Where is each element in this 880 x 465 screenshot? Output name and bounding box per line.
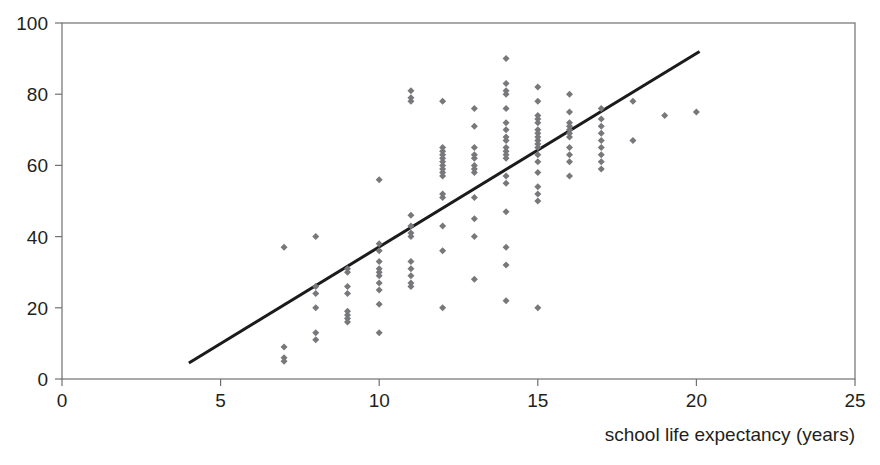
data-point-marker bbox=[503, 208, 510, 215]
data-point-marker bbox=[566, 151, 573, 158]
data-point-marker bbox=[344, 269, 351, 276]
data-point-marker bbox=[629, 137, 636, 144]
data-point-marker bbox=[503, 105, 510, 112]
data-point-marker bbox=[503, 55, 510, 62]
data-point-marker bbox=[312, 304, 319, 311]
data-point-marker bbox=[503, 262, 510, 269]
plot-border bbox=[62, 23, 855, 379]
data-point-marker bbox=[281, 244, 288, 251]
data-point-marker bbox=[407, 258, 414, 265]
data-point-marker bbox=[439, 98, 446, 105]
chart-canvas: 0510152025020406080100school life expect… bbox=[0, 0, 880, 465]
data-point-marker bbox=[312, 336, 319, 343]
data-point-marker bbox=[376, 176, 383, 183]
data-point-marker bbox=[376, 258, 383, 265]
data-point-marker bbox=[471, 276, 478, 283]
x-tick-label: 0 bbox=[57, 390, 68, 411]
data-point-marker bbox=[407, 265, 414, 272]
data-point-marker bbox=[407, 98, 414, 105]
data-point-marker bbox=[439, 173, 446, 180]
data-point-marker bbox=[693, 109, 700, 116]
data-point-marker bbox=[471, 105, 478, 112]
data-point-marker bbox=[439, 247, 446, 254]
data-point-marker bbox=[661, 112, 668, 119]
data-point-marker bbox=[534, 304, 541, 311]
data-point-marker bbox=[598, 137, 605, 144]
data-point-marker bbox=[534, 119, 541, 126]
data-point-marker bbox=[312, 290, 319, 297]
data-point-marker bbox=[566, 144, 573, 151]
data-point-marker bbox=[312, 329, 319, 336]
data-point-marker bbox=[439, 222, 446, 229]
data-point-marker bbox=[566, 133, 573, 140]
axis-labels-group: 0510152025020406080100school life expect… bbox=[16, 13, 865, 445]
data-point-marker bbox=[503, 119, 510, 126]
data-point-marker bbox=[471, 144, 478, 151]
data-point-marker bbox=[598, 116, 605, 123]
data-point-marker bbox=[407, 87, 414, 94]
y-tick-label: 20 bbox=[27, 298, 48, 319]
data-point-marker bbox=[503, 155, 510, 162]
data-point-marker bbox=[407, 272, 414, 279]
data-point-marker bbox=[629, 98, 636, 105]
data-point-marker bbox=[344, 319, 351, 326]
data-point-marker bbox=[471, 233, 478, 240]
data-point-marker bbox=[376, 272, 383, 279]
scatter-plot-figure: 0510152025020406080100school life expect… bbox=[0, 0, 880, 465]
data-point-marker bbox=[534, 183, 541, 190]
data-point-marker bbox=[503, 126, 510, 133]
data-point-marker bbox=[312, 233, 319, 240]
x-tick-label: 5 bbox=[215, 390, 226, 411]
data-point-marker bbox=[376, 279, 383, 286]
y-tick-label: 40 bbox=[27, 227, 48, 248]
data-point-marker bbox=[534, 198, 541, 205]
data-point-marker bbox=[471, 169, 478, 176]
x-tick-label: 20 bbox=[686, 390, 707, 411]
data-point-marker bbox=[344, 283, 351, 290]
data-point-marker bbox=[344, 290, 351, 297]
y-tick-label: 60 bbox=[27, 155, 48, 176]
data-point-marker bbox=[534, 169, 541, 176]
y-tick-label: 0 bbox=[37, 369, 48, 390]
data-point-marker bbox=[407, 212, 414, 219]
data-point-marker bbox=[566, 91, 573, 98]
y-tick-label: 80 bbox=[27, 84, 48, 105]
data-point-marker bbox=[566, 109, 573, 116]
data-point-marker bbox=[471, 215, 478, 222]
data-point-marker bbox=[534, 98, 541, 105]
data-point-marker bbox=[598, 144, 605, 151]
data-point-marker bbox=[503, 244, 510, 251]
trend-line-group bbox=[189, 51, 700, 363]
data-point-marker bbox=[376, 329, 383, 336]
x-axis-title: school life expectancy (years) bbox=[605, 424, 855, 445]
data-point-marker bbox=[566, 173, 573, 180]
data-point-marker bbox=[281, 343, 288, 350]
data-point-marker bbox=[376, 301, 383, 308]
data-point-marker bbox=[471, 123, 478, 130]
data-point-marker bbox=[503, 297, 510, 304]
data-point-marker bbox=[598, 165, 605, 172]
axes-group bbox=[55, 23, 855, 386]
trend-line bbox=[189, 51, 700, 363]
data-point-marker bbox=[534, 190, 541, 197]
data-point-marker bbox=[534, 84, 541, 91]
data-point-marker bbox=[376, 287, 383, 294]
x-tick-label: 25 bbox=[844, 390, 865, 411]
data-point-marker bbox=[598, 123, 605, 130]
data-point-marker bbox=[503, 91, 510, 98]
data-point-marker bbox=[598, 151, 605, 158]
data-point-marker bbox=[439, 304, 446, 311]
data-point-marker bbox=[598, 158, 605, 165]
data-point-marker bbox=[407, 283, 414, 290]
x-tick-label: 15 bbox=[527, 390, 548, 411]
data-point-marker bbox=[566, 158, 573, 165]
data-point-marker bbox=[471, 155, 478, 162]
data-point-marker bbox=[471, 194, 478, 201]
data-point-marker bbox=[503, 173, 510, 180]
data-point-marker bbox=[503, 180, 510, 187]
data-point-marker bbox=[503, 137, 510, 144]
y-tick-label: 100 bbox=[16, 13, 48, 34]
data-points-group bbox=[281, 55, 700, 365]
x-tick-label: 10 bbox=[369, 390, 390, 411]
data-point-marker bbox=[407, 233, 414, 240]
